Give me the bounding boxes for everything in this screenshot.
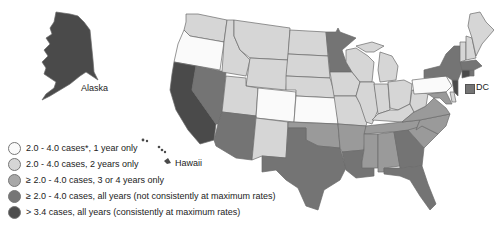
state-ri [470,70,474,76]
state-sd [286,54,330,78]
state-vt [460,42,466,62]
state-co [256,88,296,122]
state-ar [338,124,366,152]
legend-label: ≥ 2.0 - 4.0 cases, all years (not consis… [26,191,276,201]
legend-label: 2.0 - 4.0 cases, 2 years only [26,159,139,169]
legend-item: 2.0 - 4.0 cases, 2 years only [8,156,276,172]
legend-item: > 3.4 cases, all years (consistently at … [8,204,276,220]
alaska-label: Alaska [81,83,108,93]
dc-label: DC [476,82,489,92]
dc-swatch [465,84,475,94]
legend-item: 2.0 - 4.0 cases*, 1 year only [8,140,276,156]
state-ct [462,70,470,78]
legend-label: 2.0 - 4.0 cases*, 1 year only [26,143,138,153]
legend-swatch-circle-icon [8,158,21,171]
state-pa [412,76,452,94]
state-ma [460,60,482,70]
state-ny [424,46,462,80]
legend-label: > 3.4 cases, all years (consistently at … [26,207,240,217]
state-fl [384,166,436,210]
state-wy [246,58,288,90]
legend-swatch-circle-icon [8,190,21,203]
state-ms [362,134,378,168]
state-nd [288,30,328,56]
legend-item: ≥ 2.0 - 4.0 cases, 3 or 4 years only [8,172,276,188]
state-mi [378,52,398,82]
legend-swatch-circle-icon [8,142,21,155]
legend-swatch-circle-icon [8,174,21,187]
legend: 2.0 - 4.0 cases*, 1 year only 2.0 - 4.0 … [8,140,276,220]
legend-item: ≥ 2.0 - 4.0 cases, all years (not consis… [8,188,276,204]
legend-label: ≥ 2.0 - 4.0 cases, 3 or 4 years only [26,175,164,185]
state-ks [294,96,338,124]
legend-swatch-circle-icon [8,206,21,219]
